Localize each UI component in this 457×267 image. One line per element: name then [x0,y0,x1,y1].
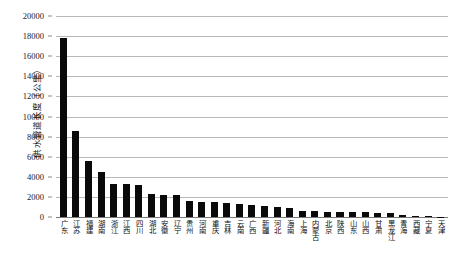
y-tick-mark [48,136,52,137]
bar [72,131,79,217]
bar [412,216,419,217]
x-label-slot: 海南 [283,219,296,267]
bar [425,216,432,217]
y-tick-label: 14000 [23,71,44,81]
x-label-slot: 北京 [321,219,334,267]
bar-slot [170,16,183,217]
x-label-slot: 河南 [195,219,208,267]
y-tick-mark [48,156,52,157]
x-tick-label: 安徽 [160,219,168,233]
bar-slot [422,16,435,217]
bar [223,203,230,217]
x-tick-label: 江苏 [72,219,80,233]
y-tick-label: 12000 [23,91,44,101]
y-tick-label: 4000 [27,172,44,182]
y-tick-label: 16000 [23,51,44,61]
bar [261,206,268,217]
x-tick-label: 内蒙古 [311,219,319,240]
x-label-slot: 辽宁 [170,219,183,267]
bar [374,213,381,217]
x-label-slot: 安徽 [158,219,171,267]
x-tick-label: 甘肃 [374,219,382,233]
bar-slot [208,16,221,217]
bar [236,204,243,217]
x-label-slot: 江西 [120,219,133,267]
x-label-slot: 天津 [434,219,447,267]
y-tick-label: 8000 [27,132,44,142]
x-label-slot: 浙江 [107,219,120,267]
x-label-slot: 山东 [346,219,359,267]
x-tick-label: 福建 [85,219,93,233]
bar-slot [434,16,447,217]
bar-slot [107,16,120,217]
y-tick-mark [48,36,52,37]
x-tick-label: 广西 [248,219,256,233]
bar-slot [246,16,259,217]
x-label-slot: 贵州 [183,219,196,267]
x-label-slot: 陕西 [334,219,347,267]
bar-slot [397,16,410,217]
x-label-slot: 重庆 [208,219,221,267]
bar [299,211,306,217]
x-tick-label: 河南 [198,219,206,233]
x-label-slot: 广西 [246,219,259,267]
bar [324,212,331,217]
x-label-slot: 云南 [233,219,246,267]
x-tick-label: 海南 [286,219,294,233]
bar [173,195,180,217]
x-label-slot: 江苏 [70,219,83,267]
x-label-slot: 上海 [296,219,309,267]
x-tick-label: 山西 [361,219,369,233]
bar-series [56,16,448,217]
x-tick-label: 重庆 [210,219,218,233]
bar-slot [132,16,145,217]
x-tick-label: 西藏 [412,219,420,233]
bar [286,208,293,217]
x-label-slot: 河北 [271,219,284,267]
y-tick-label: 0 [40,212,44,222]
x-tick-label: 青海 [399,219,407,233]
x-tick-label: 广东 [59,219,67,233]
bar [399,215,406,218]
bar-slot [409,16,422,217]
bar-slot [346,16,359,217]
bar [123,184,130,217]
plot-area [56,16,448,217]
y-tick-mark [48,196,52,197]
bar [336,212,343,217]
x-tick-label: 湖南 [97,219,105,233]
y-tick-mark [48,217,52,218]
bar [248,205,255,217]
bar [387,213,394,217]
x-tick-label: 四川 [135,219,143,233]
bar [274,207,281,217]
x-label-slot: 内蒙古 [309,219,322,267]
bar-slot [309,16,322,217]
x-tick-label: 云南 [236,219,244,233]
y-tick-label: 2000 [27,192,44,202]
bar [349,212,356,217]
bar-slot [321,16,334,217]
x-tick-label: 辽宁 [173,219,181,233]
bar [437,217,444,218]
x-tick-label: 上海 [298,219,306,233]
bar [311,211,318,217]
x-label-slot: 广东 [57,219,70,267]
bar-slot [195,16,208,217]
bar-slot [82,16,95,217]
x-label-slot: 甘肃 [371,219,384,267]
bar-slot [258,16,271,217]
bar [135,185,142,217]
x-label-slot: 湖北 [145,219,158,267]
bar [160,195,167,217]
y-tick-mark [48,56,52,57]
x-label-slot: 黑龙江 [384,219,397,267]
bar [98,172,105,217]
bar-slot [158,16,171,217]
bar-slot [145,16,158,217]
bar [362,212,369,217]
x-label-slot: 宁夏 [422,219,435,267]
y-tick-mark [48,116,52,117]
x-tick-label: 吉林 [223,219,231,233]
x-tick-label: 江西 [122,219,130,233]
